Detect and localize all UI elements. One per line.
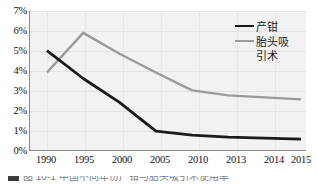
x-tick-label: 1990	[36, 153, 56, 167]
x-tick-label: 2005	[150, 153, 170, 167]
chart-figure: 7% 6% 5% 4% 3% 2% 1% 0%	[0, 0, 317, 184]
legend-label: 胎头吸	[256, 36, 289, 48]
x-axis: 1990 1995 2000 2005 2010 2013 2014 2015	[29, 153, 306, 169]
x-tick-label: 2015	[291, 153, 311, 167]
legend-swatch-icon	[235, 40, 254, 42]
x-tick-label: 2010	[188, 153, 208, 167]
y-tick-label: 2%	[0, 106, 27, 116]
x-tick-label: 2014	[264, 153, 284, 167]
x-tick-label: 2000	[112, 153, 132, 167]
legend-item-vacuum-extraction: 胎头吸 引术	[235, 32, 303, 58]
y-tick-label: 6%	[0, 26, 27, 36]
y-tick-label: 4%	[0, 66, 27, 76]
y-tick-label: 1%	[0, 126, 27, 136]
figure-caption: 图 10-1 中国不同年份产钳与胎头吸引术使用率	[0, 176, 317, 184]
x-tick-label: 1995	[74, 153, 94, 167]
figure-caption-text-clipped: 图 10-1 中国不同年份产钳与胎头吸引术使用率	[8, 176, 229, 183]
legend-label-line2: 引术	[256, 50, 303, 62]
y-axis: 7% 6% 5% 4% 3% 2% 1% 0%	[0, 0, 27, 152]
legend: 产钳 胎头吸 引术	[235, 17, 303, 58]
caption-text: 图 10-1 中国不同年份产钳与胎头吸引术使用率	[23, 176, 229, 182]
plot-area: 产钳 胎头吸 引术	[29, 11, 306, 151]
caption-marker-icon	[8, 176, 19, 181]
y-tick-label: 7%	[0, 6, 27, 16]
y-tick-label: 0%	[0, 146, 27, 156]
y-tick-label: 3%	[0, 86, 27, 96]
x-tick-label: 2013	[226, 153, 246, 167]
y-tick-label: 5%	[0, 46, 27, 56]
legend-item-forceps: 产钳	[235, 17, 303, 32]
legend-swatch-icon	[235, 25, 254, 27]
series-line-forceps	[47, 51, 301, 139]
